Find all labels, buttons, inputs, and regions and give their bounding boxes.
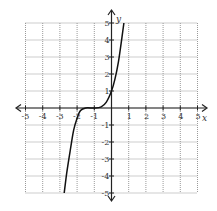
y-tick-label: 4	[105, 36, 110, 45]
x-tick-label: -1	[90, 112, 98, 121]
y-tick-label: 2	[105, 70, 110, 79]
x-tick-label: 4	[178, 112, 183, 121]
x-tick-label: -3	[56, 112, 64, 121]
y-tick-label: -1	[102, 121, 110, 130]
y-axis-label: y	[115, 14, 122, 24]
x-tick-label: -4	[39, 112, 47, 121]
y-tick-label: -5	[102, 189, 110, 198]
x-axis-label: x	[202, 113, 207, 123]
y-tick-label: 3	[105, 53, 110, 62]
x-tick-label: 1	[127, 112, 132, 121]
y-tick-label: 5	[105, 19, 110, 28]
x-tick-label: -5	[22, 112, 30, 121]
y-tick-label: -2	[102, 138, 110, 147]
graph: x y -5-4-3-2-112345-5-4-3-2-112345	[0, 0, 217, 211]
axes: x y	[16, 10, 207, 201]
y-tick-label: -3	[102, 155, 110, 164]
x-tick-label: 3	[161, 112, 166, 121]
y-tick-label: -4	[102, 172, 110, 181]
x-tick-label: 2	[144, 112, 149, 121]
y-tick-label: 1	[105, 87, 110, 96]
x-tick-label: 5	[196, 112, 201, 121]
